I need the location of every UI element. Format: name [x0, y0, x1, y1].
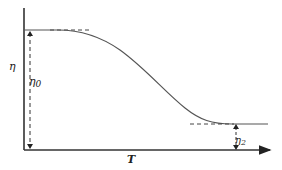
eta0-label: η0 [29, 75, 42, 89]
eta0-bottom-arrow-icon [27, 144, 33, 149]
x-axis-label: T [127, 153, 136, 166]
diagram-svg: η η0 T η2 [0, 0, 282, 170]
eta0-top-arrow-icon [27, 31, 33, 36]
y-axis-label: η [9, 60, 16, 73]
eta2-top-arrow-icon [233, 124, 239, 129]
viscosity-curve [24, 30, 268, 124]
diagram-canvas: η η0 T η2 [0, 0, 282, 170]
